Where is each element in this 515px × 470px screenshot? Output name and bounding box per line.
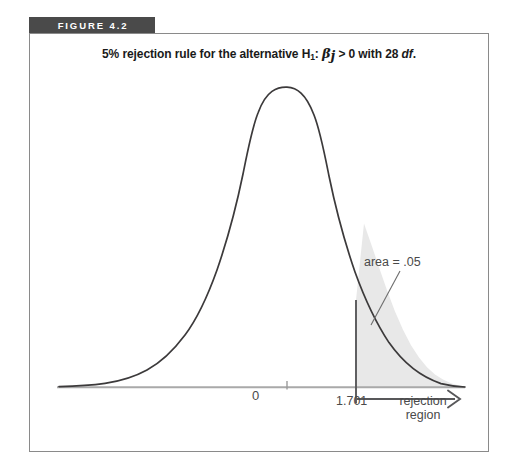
- rejection-region-label: rejection region: [381, 394, 465, 422]
- area-annotation-label: area = .05: [364, 255, 421, 269]
- axis-label-origin: 0: [252, 389, 259, 404]
- figure-container: FIGURE 4.2 5% rejection rule for the alt…: [0, 0, 515, 470]
- figure-label-text: FIGURE 4.2: [56, 21, 129, 31]
- axis-label-critical-value: 1.701: [336, 394, 367, 408]
- figure-label-band: FIGURE 4.2: [29, 17, 155, 34]
